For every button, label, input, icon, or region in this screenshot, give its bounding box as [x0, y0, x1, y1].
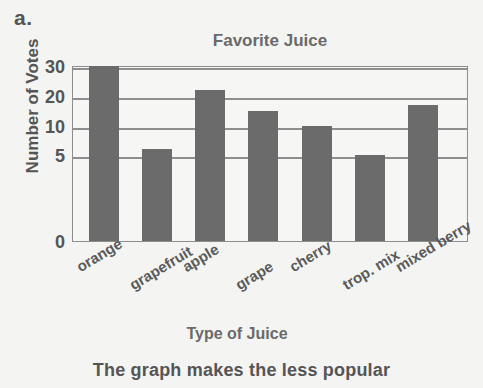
figure-panel: a. Favorite Juice Number of Votes 051020…	[0, 0, 483, 388]
y-tick-20: 20	[5, 88, 65, 106]
y-tick-0: 0	[5, 233, 65, 251]
x-tick-grape: grape	[233, 257, 277, 293]
x-tick-grapefruit: grapefruit	[126, 242, 195, 293]
x-tick-trop-mix: trop. mix	[339, 246, 402, 293]
bar-grapefruit	[142, 149, 172, 241]
chart-title: Favorite Juice	[72, 31, 468, 51]
plot-area	[72, 66, 468, 242]
y-tick-5: 5	[5, 147, 65, 165]
bar-mixed-berry	[408, 105, 438, 241]
bar-apple	[195, 90, 225, 241]
y-tick-30: 30	[5, 58, 65, 76]
bar-trop-mix	[355, 155, 385, 241]
bar-orange	[89, 66, 119, 241]
x-tick-apple: apple	[180, 240, 222, 275]
bar-grape	[248, 111, 278, 241]
bar-series	[73, 67, 467, 241]
y-tick-10: 10	[5, 118, 65, 136]
bar-cherry	[302, 126, 332, 241]
y-axis-label: Number of Votes	[23, 11, 43, 201]
figure-caption: The graph makes the less popular	[0, 360, 483, 381]
x-tick-cherry: cherry	[286, 237, 334, 275]
x-axis-label: Type of Juice	[72, 325, 402, 343]
